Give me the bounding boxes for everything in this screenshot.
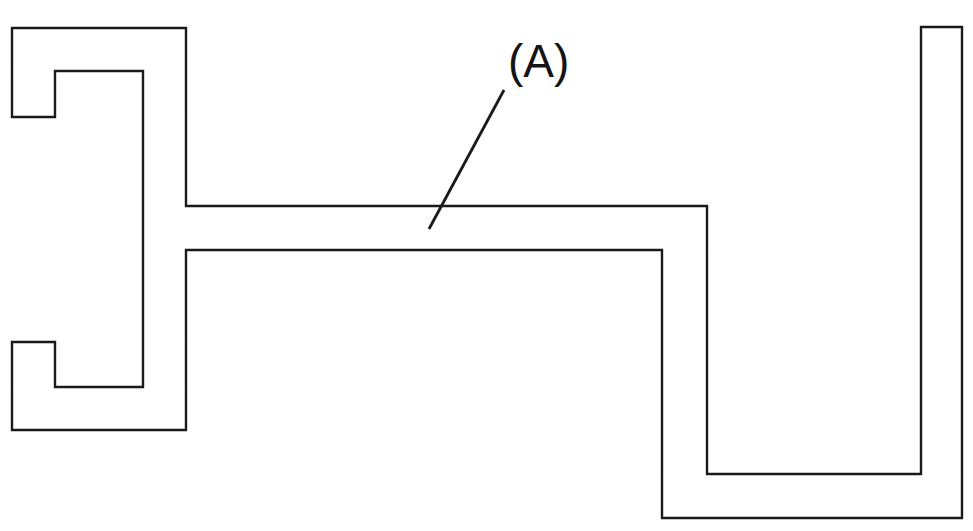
leader-line-a xyxy=(429,90,504,229)
technical-drawing-canvas: (A) xyxy=(0,0,973,531)
drawing-vector-layer xyxy=(0,0,973,531)
profile-outline-path xyxy=(12,27,962,518)
callout-label-a: (A) xyxy=(508,38,569,84)
